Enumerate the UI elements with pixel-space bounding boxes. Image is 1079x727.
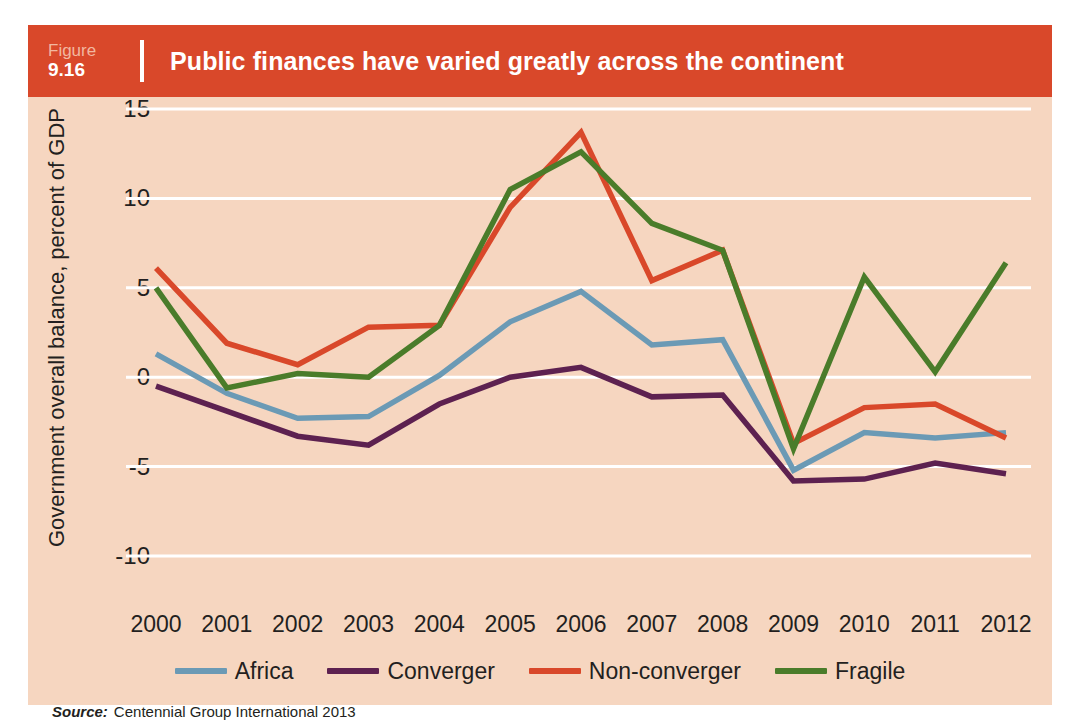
legend-label: Converger — [387, 658, 494, 685]
chart-plot-area: Government overall balance, percent of G… — [28, 97, 1052, 705]
figure-number-label: 9.16 — [48, 60, 140, 80]
x-axis-tick-2010: 2010 — [839, 611, 890, 638]
x-axis-tick-2011: 2011 — [910, 611, 959, 638]
legend-label: Fragile — [835, 658, 905, 685]
figure-word-label: Figure — [48, 42, 140, 60]
legend-item-converger[interactable]: Converger — [327, 658, 494, 685]
page-title: Public finances have varied greatly acro… — [170, 47, 844, 76]
x-axis-tick-2000: 2000 — [130, 611, 181, 638]
legend-item-africa[interactable]: Africa — [175, 658, 294, 685]
x-axis-tick-2007: 2007 — [626, 611, 677, 638]
x-axis-tick-2006: 2006 — [555, 611, 606, 638]
y-axis-title: Government overall balance, percent of G… — [44, 117, 70, 547]
x-axis-tick-2012: 2012 — [980, 611, 1031, 638]
chart-legend: AfricaConvergerNon-convergerFragile — [28, 653, 1052, 689]
x-axis-tick-2003: 2003 — [343, 611, 394, 638]
x-axis-tick-2008: 2008 — [697, 611, 748, 638]
header-divider — [140, 40, 144, 82]
legend-swatch-icon — [327, 668, 379, 674]
legend-swatch-icon — [529, 668, 581, 674]
chart-svg — [126, 97, 1031, 607]
legend-label: Non-converger — [589, 658, 741, 685]
figure-header-bar: Figure 9.16 Public finances have varied … — [28, 25, 1052, 97]
figure-number-block: Figure 9.16 — [28, 42, 140, 80]
legend-label: Africa — [235, 658, 294, 685]
x-axis-tick-2005: 2005 — [485, 611, 536, 638]
source-label: Source: — [52, 703, 108, 720]
legend-swatch-icon — [175, 668, 227, 674]
x-axis-tick-2002: 2002 — [272, 611, 323, 638]
figure-card: Figure 9.16 Public finances have varied … — [28, 25, 1052, 705]
series-line-africa — [156, 291, 1006, 470]
x-axis-tick-2004: 2004 — [414, 611, 465, 638]
source-line: Source:Centennial Group International 20… — [52, 703, 356, 720]
x-axis-tick-2009: 2009 — [768, 611, 819, 638]
series-line-converger — [156, 367, 1006, 481]
legend-item-fragile[interactable]: Fragile — [775, 658, 905, 685]
legend-item-non-converger[interactable]: Non-converger — [529, 658, 741, 685]
legend-swatch-icon — [775, 668, 827, 674]
x-axis-tick-2001: 2001 — [201, 611, 252, 638]
source-text: Centennial Group International 2013 — [114, 703, 356, 720]
x-axis-tick-labels: 2000200120022003200420052006200720082009… — [126, 607, 1031, 645]
